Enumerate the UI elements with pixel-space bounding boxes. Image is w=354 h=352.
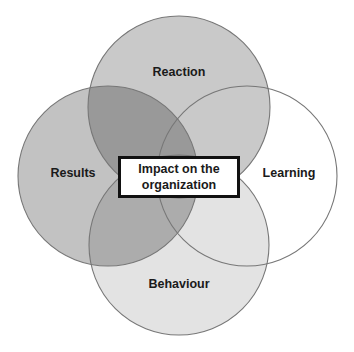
reaction-label: Reaction bbox=[153, 65, 206, 79]
center-box-impact: Impact on the organization bbox=[118, 156, 240, 198]
learning-label: Learning bbox=[263, 166, 316, 180]
behaviour-label: Behaviour bbox=[148, 277, 209, 291]
results-label: Results bbox=[50, 166, 95, 180]
center-text-line1: Impact on the bbox=[138, 161, 219, 177]
center-text-line2: organization bbox=[142, 177, 216, 193]
